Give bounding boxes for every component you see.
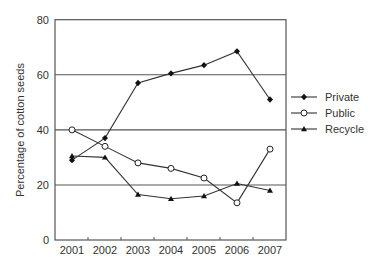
circle-marker-icon xyxy=(301,110,307,116)
y-tick-label: 0 xyxy=(43,234,49,246)
y-tick-label: 40 xyxy=(37,124,49,136)
x-tick-label: 2002 xyxy=(93,244,117,256)
circle-marker-icon xyxy=(69,127,75,133)
y-tick-label: 60 xyxy=(37,69,49,81)
x-tick-label: 2003 xyxy=(126,244,150,256)
legend-item-public: Public xyxy=(291,107,355,119)
diamond-marker-icon xyxy=(301,94,307,100)
x-tick-label: 2001 xyxy=(60,244,84,256)
legend-item-private: Private xyxy=(291,91,359,103)
triangle-marker-icon xyxy=(234,181,240,186)
series-public xyxy=(69,127,273,206)
y-axis: 020406080 xyxy=(37,14,49,246)
legend-label: Public xyxy=(325,107,355,119)
x-tick-label: 2006 xyxy=(225,244,249,256)
data-series xyxy=(69,48,273,206)
diamond-marker-icon xyxy=(102,135,108,141)
y-tick-label: 20 xyxy=(37,179,49,191)
legend-label: Private xyxy=(325,91,359,103)
circle-marker-icon xyxy=(135,160,141,166)
circle-marker-icon xyxy=(201,175,207,181)
diamond-marker-icon xyxy=(135,80,141,86)
circle-marker-icon xyxy=(102,143,108,149)
x-tick-label: 2007 xyxy=(258,244,282,256)
series-line xyxy=(72,51,270,160)
x-tick-label: 2004 xyxy=(159,244,183,256)
series-line xyxy=(72,156,270,199)
legend-label: Recycle xyxy=(325,123,364,135)
y-tick-label: 80 xyxy=(37,14,49,26)
x-tick-label: 2005 xyxy=(192,244,216,256)
y-axis-title: Percentage of cotton seeds xyxy=(14,63,26,197)
diamond-marker-icon xyxy=(168,70,174,76)
circle-marker-icon xyxy=(168,165,174,171)
diamond-marker-icon xyxy=(201,62,207,68)
legend-item-recycle: Recycle xyxy=(291,123,364,135)
line-chart: 020406080 2001200220032004200520062007 P… xyxy=(0,0,377,270)
legend: PrivatePublicRecycle xyxy=(291,91,364,135)
circle-marker-icon xyxy=(234,200,240,206)
circle-marker-icon xyxy=(267,146,273,152)
series-private xyxy=(69,48,273,163)
